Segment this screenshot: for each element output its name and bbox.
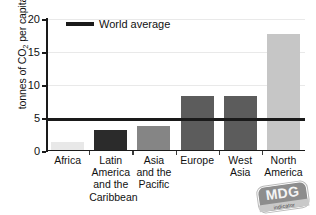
y-axis-tick-label: 5	[34, 112, 40, 124]
plot-area: 05101520	[46, 19, 305, 151]
y-axis-line	[46, 18, 48, 152]
y-axis-title-prefix: tonnes of CO	[16, 49, 28, 110]
legend-label-world-average: World average	[99, 18, 170, 30]
bar	[224, 96, 257, 149]
x-axis-category-label: Asiaand thePacific	[132, 154, 175, 191]
y-axis-tick-mark	[42, 85, 46, 87]
category-label-line: Europe	[176, 154, 219, 166]
category-label-line: North	[262, 154, 305, 166]
bar	[51, 142, 84, 150]
mdg-indicator-logo: MDG indicator	[256, 181, 309, 214]
category-label-line: and the	[132, 166, 175, 178]
y-axis-tick-mark	[42, 19, 46, 21]
x-axis-category-label: LatinAmericaand theCaribbean	[89, 154, 132, 203]
x-axis-category-label: WestAsia	[219, 154, 262, 178]
y-axis-title-suffix: per capita	[16, 0, 28, 45]
co2-per-capita-bar-chart: tonnes of CO2 per capita 05101520 World …	[0, 0, 316, 215]
y-axis-tick-mark	[42, 52, 46, 54]
y-axis-tick-label: 15	[28, 46, 40, 58]
y-axis-tick-label: 20	[28, 13, 40, 25]
category-label-line: Pacific	[132, 178, 175, 190]
category-label-line: Asia	[219, 166, 262, 178]
category-label-line: America	[89, 166, 132, 178]
bar	[137, 126, 170, 149]
category-label-line: Caribbean	[89, 191, 132, 203]
y-axis-tick-mark	[42, 151, 46, 153]
category-label-line: Latin	[89, 154, 132, 166]
category-label-line: and the	[89, 178, 132, 190]
world-average-line	[47, 118, 305, 122]
category-label-line: Asia	[132, 154, 175, 166]
bar	[267, 34, 300, 150]
y-axis-title: tonnes of CO2 per capita	[16, 0, 28, 127]
x-axis-category-label: NorthAmerica	[262, 154, 305, 178]
category-label-line: Africa	[46, 154, 89, 166]
legend-line-swatch	[66, 22, 94, 26]
category-label-line: West	[219, 154, 262, 166]
legend: World average	[66, 18, 170, 30]
y-axis-tick-label: 10	[28, 79, 40, 91]
x-axis-category-label: Africa	[46, 154, 89, 166]
y-axis-tick-label: 0	[34, 145, 40, 157]
bar	[94, 130, 127, 150]
x-axis-category-label: Europe	[176, 154, 219, 166]
bar	[181, 96, 214, 149]
category-label-line: America	[262, 166, 305, 178]
y-axis-tick-mark	[42, 118, 46, 120]
